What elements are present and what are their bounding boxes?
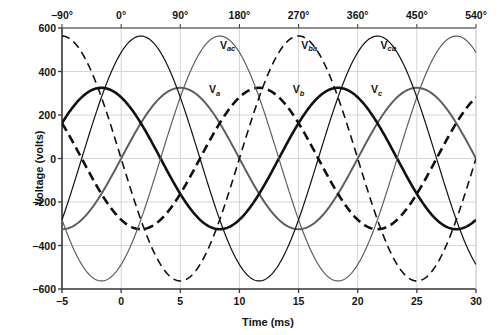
gridlines: [62, 28, 476, 289]
curve-labels: VaVbVcVacVbaVcb: [209, 39, 397, 98]
plot-area: VaVbVcVacVbaVcb: [0, 0, 499, 335]
curve-label-Vc: Vc: [371, 83, 383, 98]
curve-label-Vac: Vac: [220, 39, 236, 54]
chart-figure: Voltage (volts) Time (ms) −90°0°90°180°2…: [0, 0, 499, 335]
curve-label-Va: Va: [209, 83, 220, 98]
